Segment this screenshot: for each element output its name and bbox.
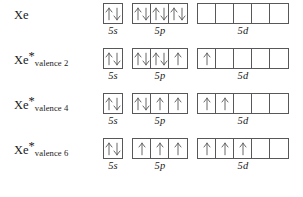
orbital-boxes-5d (197, 93, 289, 114)
orbital-cell (252, 94, 270, 113)
electron-arrows (133, 139, 150, 158)
species-symbol: Xe (14, 98, 29, 112)
electron-arrows (104, 139, 122, 158)
orbital-cell (169, 49, 187, 68)
subshell-label-5p: 5p (132, 160, 188, 171)
orbital-cell (169, 4, 187, 23)
orbital-cell (216, 49, 234, 68)
orbital-cell (234, 4, 252, 23)
orbital-cell (270, 4, 288, 23)
subshell-group-5p: 5p (132, 48, 188, 81)
orbital-cell (198, 94, 216, 113)
subshell-label-5s: 5s (103, 70, 123, 81)
subshell-group-5p: 5p (132, 3, 188, 36)
orbital-row: Xe*valence 4 5s 5p 5d (0, 90, 303, 135)
orbital-cell (104, 49, 122, 68)
orbital-cell (169, 139, 187, 158)
species-valence-subscript: valence 4 (35, 103, 69, 113)
subshell-label-5p: 5p (132, 25, 188, 36)
orbital-cell (151, 94, 169, 113)
orbital-boxes-5s (103, 138, 123, 159)
orbital-cell (104, 94, 122, 113)
orbital-cell (252, 49, 270, 68)
electron-arrows (104, 94, 122, 113)
orbital-cell (133, 139, 151, 158)
electron-arrows (151, 94, 168, 113)
orbital-boxes-5s (103, 93, 123, 114)
electron-arrows (151, 139, 168, 158)
subshell-label-5s: 5s (103, 160, 123, 171)
subshell-label-5p: 5p (132, 115, 188, 126)
electron-arrows (198, 49, 215, 68)
orbital-cell (198, 139, 216, 158)
electron-arrows (133, 4, 150, 23)
subshell-group-5s: 5s (103, 48, 123, 81)
orbital-cell (216, 4, 234, 23)
orbital-boxes-5d (197, 138, 289, 159)
species-symbol: Xe (14, 143, 29, 157)
species-excited-marker: * (29, 49, 35, 63)
species-label: Xe*valence 2 (14, 54, 100, 67)
species-label: Xe*valence 4 (14, 99, 100, 112)
orbital-cell (151, 4, 169, 23)
electron-arrows (104, 49, 122, 68)
subshell-label-5d: 5d (197, 115, 289, 126)
orbital-cell (133, 49, 151, 68)
orbital-cell (252, 4, 270, 23)
orbital-cell (151, 49, 169, 68)
orbital-boxes-5p (132, 3, 188, 24)
orbital-cell (104, 4, 122, 23)
subshell-group-5s: 5s (103, 3, 123, 36)
species-label: Xe (14, 9, 100, 22)
electron-arrows (234, 139, 251, 158)
orbital-cell (216, 139, 234, 158)
orbital-cell (234, 94, 252, 113)
electron-arrows (169, 49, 187, 68)
orbital-boxes-5s (103, 48, 123, 69)
orbital-cell (198, 49, 216, 68)
electron-arrows (216, 139, 233, 158)
species-label: Xe*valence 6 (14, 144, 100, 157)
electron-arrows (133, 49, 150, 68)
orbital-cell (270, 139, 288, 158)
orbital-row: Xe*valence 6 5s 5p 5d (0, 135, 303, 180)
orbital-boxes-5d (197, 48, 289, 69)
orbital-cell (216, 94, 234, 113)
electron-arrows (133, 94, 150, 113)
species-symbol: Xe (14, 53, 29, 67)
orbital-cell (169, 94, 187, 113)
subshell-label-5d: 5d (197, 70, 289, 81)
species-symbol: Xe (14, 8, 29, 22)
orbital-cell (270, 94, 288, 113)
species-valence-subscript: valence 6 (35, 148, 69, 158)
subshell-group-5d: 5d (197, 93, 289, 126)
subshell-label-5p: 5p (132, 70, 188, 81)
orbital-cell (270, 49, 288, 68)
electron-arrows (151, 49, 168, 68)
electron-arrows (169, 4, 187, 23)
subshell-group-5d: 5d (197, 48, 289, 81)
electron-arrows (169, 94, 187, 113)
orbital-cell (133, 94, 151, 113)
electron-arrows (104, 4, 122, 23)
orbital-cell (104, 139, 122, 158)
orbital-row: Xe 5s 5p 5d (0, 0, 303, 45)
subshell-label-5s: 5s (103, 25, 123, 36)
orbital-boxes-5p (132, 138, 188, 159)
orbital-boxes-5p (132, 48, 188, 69)
orbital-boxes-5p (132, 93, 188, 114)
species-excited-marker: * (29, 139, 35, 153)
orbital-cell (234, 49, 252, 68)
electron-arrows (169, 139, 187, 158)
orbital-row: Xe*valence 2 5s 5p 5d (0, 45, 303, 90)
orbital-boxes-5d (197, 3, 289, 24)
subshell-group-5d: 5d (197, 138, 289, 171)
orbital-cell (252, 139, 270, 158)
electron-arrows (216, 94, 233, 113)
orbital-cell (133, 4, 151, 23)
subshell-group-5p: 5p (132, 138, 188, 171)
subshell-group-5d: 5d (197, 3, 289, 36)
electron-arrows (198, 139, 215, 158)
subshell-label-5s: 5s (103, 115, 123, 126)
electron-arrows (198, 94, 215, 113)
